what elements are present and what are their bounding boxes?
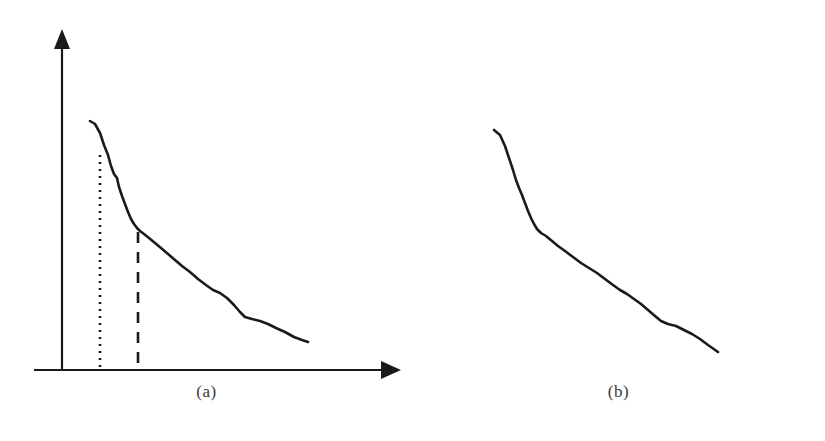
chart-svg-a — [0, 0, 413, 441]
y-axis-arrow-icon — [54, 29, 70, 49]
chart-svg-b — [412, 0, 825, 441]
figure-container: (a) (b) — [0, 0, 825, 441]
data-group-b — [494, 130, 718, 352]
decay-curve-b — [494, 130, 718, 352]
panel-caption-b-label: (b) — [608, 381, 629, 403]
chart-panel-a: (a) — [0, 0, 413, 441]
axes-group-a — [34, 29, 401, 379]
decay-curve-a — [90, 121, 308, 342]
panel-caption-b: (b) — [412, 381, 825, 403]
panel-caption-a: (a) — [0, 381, 413, 403]
chart-panel-b: (b) — [412, 0, 825, 441]
panel-caption-a-label: (a) — [196, 381, 216, 403]
x-axis-arrow-icon — [381, 361, 401, 379]
data-group-a — [90, 121, 308, 342]
